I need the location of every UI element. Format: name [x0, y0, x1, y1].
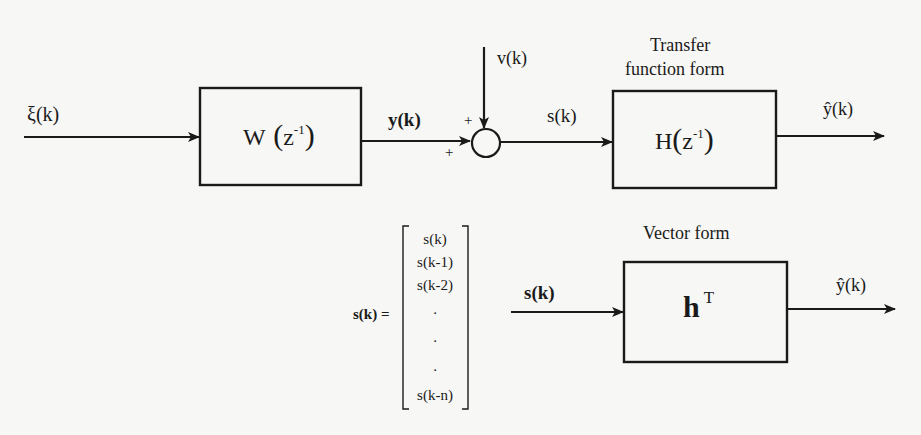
matrix-row: .	[400, 359, 470, 374]
estimate-label: ŷ(k)	[823, 100, 853, 118]
filter-vec-title: Vector form	[643, 224, 729, 242]
noise-label: v(k)	[497, 49, 527, 67]
filter-tf-exponent: -1	[693, 126, 704, 141]
plant-name: W	[243, 124, 266, 150]
plant-block-label: W (z-1)	[243, 120, 315, 150]
vector-definition-matrix: s(k) s(k-1) s(k-2) . . . s(k-n)	[400, 230, 470, 410]
plant-output-label: y(k)	[388, 110, 421, 129]
plant-exponent: -1	[294, 122, 305, 137]
matrix-row: s(k)	[400, 232, 470, 247]
filter-tf-title-line2: function form	[625, 60, 724, 78]
vector-input-text: s(k)	[524, 282, 555, 303]
filter-vec-block-label: hT	[683, 292, 714, 322]
vector-input-label: s(k)	[524, 283, 555, 302]
sum-sign-left: +	[445, 145, 453, 160]
filter-tf-title-line1: Transfer	[650, 36, 710, 54]
sum-sign-top: +	[464, 113, 472, 128]
filter-vec-exponent: T	[704, 288, 714, 307]
close-paren: )	[305, 118, 315, 151]
filter-tf-block-label: H(z-1)	[655, 124, 714, 154]
vector-definition-lhs: s(k) =	[353, 307, 389, 322]
matrix-row: s(k-n)	[400, 388, 470, 403]
open-paren: (	[266, 118, 284, 151]
matrix-row: s(k-2)	[400, 278, 470, 293]
filter-tf-name: H	[655, 128, 672, 154]
summing-junction	[472, 129, 500, 157]
sum-output-label: s(k)	[547, 106, 577, 125]
matrix-row: .	[400, 302, 470, 317]
input-signal-label: ξ(k)	[27, 104, 59, 124]
vector-estimate-label: ŷ(k)	[836, 276, 866, 294]
open-paren: (	[672, 122, 682, 155]
plant-arg: z	[283, 124, 294, 150]
filter-tf-arg: z	[682, 128, 693, 154]
close-paren: )	[704, 122, 714, 155]
filter-vec-name: h	[683, 290, 700, 323]
matrix-row: s(k-1)	[400, 255, 470, 270]
matrix-row: .	[400, 330, 470, 345]
